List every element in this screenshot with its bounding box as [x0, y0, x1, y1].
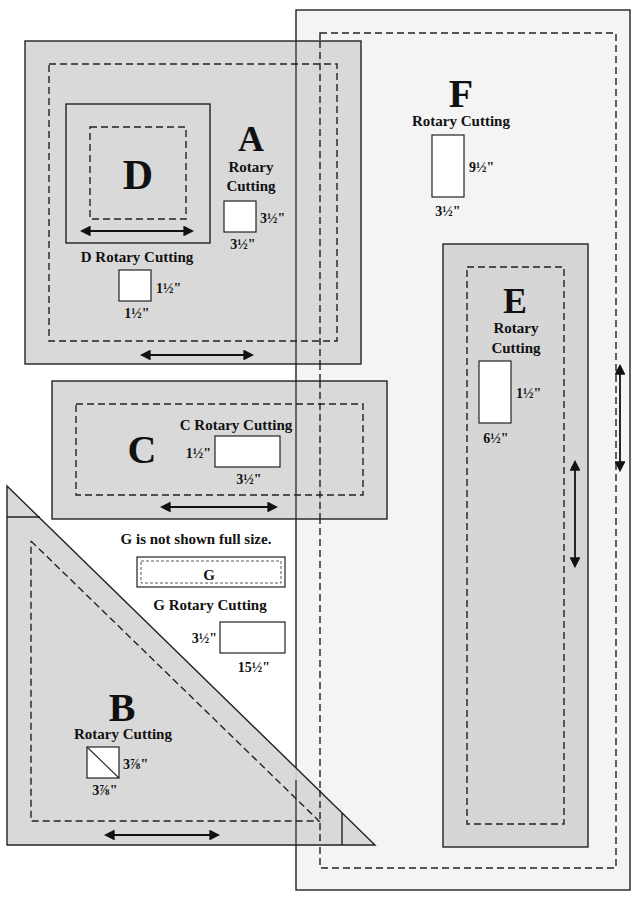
- piece-e-label-line1: Rotary: [494, 320, 539, 336]
- piece-g-width: 15½": [238, 660, 270, 675]
- piece-e: E Rotary Cutting 1½" 6½": [443, 244, 588, 847]
- piece-d-letter: D: [123, 152, 153, 198]
- piece-c-letter: C: [128, 427, 157, 472]
- piece-a-label-line2: Cutting: [226, 178, 276, 194]
- piece-a: [25, 41, 361, 364]
- piece-a-label-line1: Rotary: [229, 159, 274, 175]
- piece-g-letter: G: [203, 567, 215, 583]
- piece-d-width: 1½": [124, 306, 149, 321]
- piece-g-cut-rect: [220, 622, 285, 653]
- piece-e-label-line2: Cutting: [491, 340, 541, 356]
- piece-a-cut-square: [224, 201, 256, 232]
- piece-f-cut-rect: [432, 135, 464, 197]
- piece-f-width: 3½": [435, 204, 460, 219]
- piece-d-cutting-label: D Rotary Cutting: [81, 249, 194, 265]
- piece-g-cutting-label: G Rotary Cutting: [153, 597, 267, 613]
- piece-f-height: 9½": [469, 160, 494, 175]
- piece-b-cutting-label: Rotary Cutting: [74, 726, 172, 742]
- piece-a-outline: [25, 41, 361, 364]
- piece-a-width: 3½": [230, 237, 255, 252]
- piece-d-height: 1½": [156, 281, 181, 296]
- piece-d-cut-square: [119, 270, 151, 301]
- piece-e-height: 1½": [516, 386, 541, 401]
- piece-b-width: 3⅞": [92, 783, 117, 798]
- piece-f-letter: F: [449, 71, 473, 116]
- piece-c-height: 1½": [186, 446, 211, 461]
- piece-c-cut-rect: [215, 436, 280, 467]
- piece-c: C C Rotary Cutting 1½" 3½": [52, 381, 387, 519]
- piece-a-letter: A: [238, 119, 264, 159]
- quilt-template-diagram: D D Rotary Cutting 1½" 1½" A Rotary Cutt…: [0, 0, 643, 900]
- piece-f-cutting-label: Rotary Cutting: [412, 113, 510, 129]
- piece-a-height: 3½": [260, 211, 285, 226]
- piece-g-note: G is not shown full size.: [121, 531, 272, 547]
- piece-c-width: 3½": [236, 472, 261, 487]
- piece-e-cut-rect: [479, 361, 511, 423]
- piece-b-height: 3⅞": [123, 757, 148, 772]
- piece-c-cutting-label: C Rotary Cutting: [180, 417, 293, 433]
- piece-e-width: 6½": [483, 431, 508, 446]
- piece-g-height: 3½": [192, 631, 217, 646]
- piece-b-letter: B: [109, 685, 136, 730]
- piece-e-letter: E: [503, 281, 527, 321]
